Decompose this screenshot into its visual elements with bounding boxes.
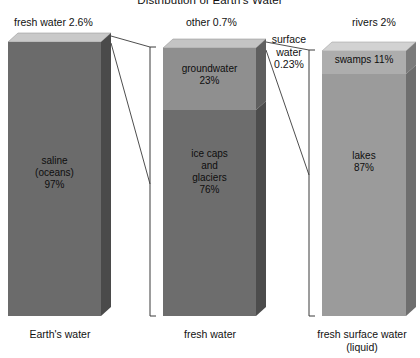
bar3-label-swamps: swamps 11% <box>322 54 406 66</box>
bar1-label-saline: saline (oceans) 97% <box>8 155 101 191</box>
callout-fresh-water-percent: fresh water 2.6% <box>14 16 93 29</box>
bar2-label-groundwater: groundwater 23% <box>163 63 256 87</box>
chart-container: Distribution of Earth's Water fresh wate… <box>0 0 420 358</box>
chart-title: Distribution of Earth's Water <box>0 0 420 6</box>
axis-label-fresh-surface-water: fresh surface water (liquid) <box>304 328 420 353</box>
connector-1-bottom <box>111 43 150 184</box>
callout-rivers-percent: rivers 2% <box>352 16 396 29</box>
axis-label-earths-water: Earth's water <box>0 328 120 341</box>
connector-1-top <box>111 36 150 47</box>
bar2-label-icecaps: ice caps and glaciers 76% <box>163 148 256 196</box>
bar3-segment-lakes-front <box>322 74 406 316</box>
callout-other-percent: other 0.7% <box>186 16 237 29</box>
bracket-panel3 <box>309 50 315 316</box>
bracket-panel2 <box>150 47 156 316</box>
callout-surface-water-percent: surface water 0.23% <box>268 33 310 71</box>
bar2-segment-icecaps-front <box>163 110 256 316</box>
bar3-label-lakes: lakes 87% <box>322 150 406 174</box>
axis-label-fresh-water: fresh water <box>150 328 270 341</box>
